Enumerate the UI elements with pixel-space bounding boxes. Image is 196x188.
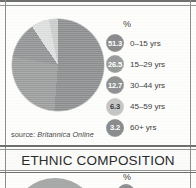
legend-item: 26.515–29 yrs <box>106 54 190 74</box>
legend-item: 6.345–59 yrs <box>106 97 190 117</box>
legend-item: 3.260+ yrs <box>106 118 190 138</box>
frame-rule-top-inner <box>0 5 196 6</box>
legend-label: 45–59 yrs <box>130 102 165 111</box>
legend-value-bubble: 26.5 <box>106 55 124 73</box>
age-pie-chart <box>8 13 106 117</box>
source-label: source: <box>11 130 35 139</box>
ethnic-composition-panel: % 33 <box>6 172 190 188</box>
legend-value-bubble: 12.7 <box>106 76 124 94</box>
legend-value-bubble: 3.2 <box>106 119 124 137</box>
ethnic-percent-header: % <box>123 172 131 182</box>
ethnic-composition-header: ETHNIC COMPOSITION <box>6 151 190 170</box>
legend-label: 15–29 yrs <box>130 60 165 69</box>
source-name: Britannica Online <box>37 130 93 139</box>
ethnic-pie-chart <box>12 178 98 188</box>
legend-value-bubble: 6.3 <box>106 98 124 116</box>
ethnic-legend-bubble: 33 <box>117 184 135 188</box>
ethnic-composition-title: ETHNIC COMPOSITION <box>21 153 175 168</box>
age-distribution-panel: % 51.30–15 yrs26.515–29 yrs12.730–44 yrs… <box>6 9 190 143</box>
frame-rule-mid-upper <box>0 145 196 147</box>
source-credit: source: Britannica Online <box>11 130 94 139</box>
frame-rule-mid-thin <box>0 149 196 150</box>
frame-rule-lower <box>0 172 196 173</box>
frame-rule-top <box>0 0 196 2</box>
age-pie-slices <box>12 19 104 111</box>
legend-item: 12.730–44 yrs <box>106 75 190 95</box>
legend-label: 30–44 yrs <box>130 81 165 90</box>
legend-value-bubble: 51.3 <box>106 34 124 52</box>
legend-item: 51.30–15 yrs <box>106 33 190 53</box>
infographic-page: % 51.30–15 yrs26.515–29 yrs12.730–44 yrs… <box>0 0 196 188</box>
age-legend: % 51.30–15 yrs26.515–29 yrs12.730–44 yrs… <box>106 11 190 139</box>
frame-rule-lower-thin <box>0 170 196 171</box>
percent-header: % <box>123 19 131 29</box>
frame-rule-left <box>5 0 6 188</box>
frame-rule-right <box>190 0 191 188</box>
legend-label: 60+ yrs <box>130 123 156 132</box>
legend-label: 0–15 yrs <box>130 39 161 48</box>
